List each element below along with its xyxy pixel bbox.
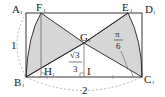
shaded-region-right — [84, 13, 142, 77]
label-c1: C — [144, 73, 151, 85]
label-f1-sub: 1 — [43, 8, 46, 13]
geometry-diagram: A 1 F 1 E 1 D 1 G 1 B 1 H 1 I C 1 1 2 π … — [0, 0, 165, 97]
label-c1-sub: 1 — [152, 80, 155, 85]
dashed-arc-left — [17, 13, 26, 77]
label-d1-sub: 1 — [153, 10, 156, 15]
length-label-numerator: √3 — [70, 50, 80, 60]
label-height-1: 1 — [11, 39, 17, 51]
label-g1: G — [80, 31, 88, 43]
label-i: I — [87, 65, 91, 77]
label-width-2: 2 — [82, 84, 88, 96]
right-angle-mark-i — [80, 73, 84, 77]
label-d1: D — [145, 3, 153, 15]
label-e1-sub: 1 — [130, 8, 133, 13]
label-b1-sub: 1 — [22, 83, 25, 88]
label-a1: A — [12, 3, 20, 15]
label-a1-sub: 1 — [20, 10, 23, 15]
label-b1: B — [14, 76, 21, 88]
label-h1-sub: 1 — [52, 72, 55, 77]
length-label-denominator: 3 — [73, 64, 78, 74]
label-h1: H — [44, 65, 52, 77]
angle-label-numerator: π — [115, 29, 120, 39]
angle-label-denominator: 6 — [116, 41, 121, 51]
label-f1: F — [36, 1, 42, 13]
label-e1: E — [122, 1, 129, 13]
